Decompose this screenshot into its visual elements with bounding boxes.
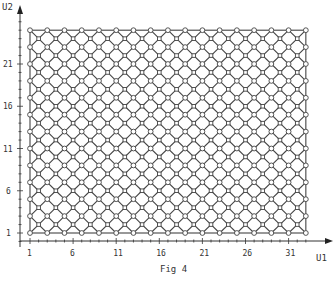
circle-node-icon bbox=[62, 129, 67, 134]
circle-node-icon bbox=[114, 231, 119, 236]
square-node-icon bbox=[71, 189, 75, 193]
square-node-icon bbox=[89, 206, 93, 210]
circle-node-icon bbox=[200, 95, 205, 100]
circle-node-icon bbox=[217, 129, 222, 134]
circle-node-icon bbox=[286, 231, 291, 236]
x-axis-label: U1 bbox=[316, 253, 327, 263]
circle-node-icon bbox=[183, 129, 188, 134]
circle-node-icon bbox=[114, 129, 119, 134]
square-node-icon bbox=[244, 54, 248, 58]
circle-node-icon bbox=[269, 28, 274, 33]
square-node-icon bbox=[37, 37, 41, 41]
circle-node-icon bbox=[148, 231, 153, 236]
circle-node-icon bbox=[45, 79, 50, 84]
square-node-icon bbox=[158, 37, 162, 41]
circle-node-icon bbox=[97, 95, 102, 100]
square-node-icon bbox=[123, 121, 127, 125]
circle-node-icon bbox=[114, 146, 119, 151]
square-node-icon bbox=[158, 121, 162, 125]
circle-node-icon bbox=[131, 79, 136, 84]
square-node-icon bbox=[175, 189, 179, 193]
square-node-icon bbox=[158, 223, 162, 227]
square-node-icon bbox=[261, 54, 265, 58]
square-node-icon bbox=[71, 206, 75, 210]
circle-node-icon bbox=[28, 129, 33, 134]
square-node-icon bbox=[140, 88, 144, 92]
square-node-icon bbox=[261, 121, 265, 125]
square-node-icon bbox=[209, 223, 213, 227]
circle-node-icon bbox=[28, 28, 33, 33]
circle-node-icon bbox=[252, 28, 257, 33]
circle-node-icon bbox=[131, 214, 136, 219]
square-node-icon bbox=[123, 155, 127, 159]
circle-node-icon bbox=[303, 28, 308, 33]
y-tick-label: 6 bbox=[6, 187, 11, 196]
circle-node-icon bbox=[252, 214, 257, 219]
square-node-icon bbox=[123, 138, 127, 142]
square-node-icon bbox=[192, 155, 196, 159]
square-node-icon bbox=[175, 172, 179, 176]
circle-node-icon bbox=[45, 129, 50, 134]
circle-node-icon bbox=[252, 129, 257, 134]
square-node-icon bbox=[140, 104, 144, 108]
square-node-icon bbox=[278, 88, 282, 92]
square-node-icon bbox=[71, 71, 75, 75]
lattice-figure: 161116212631 16111621 U1 U2 Fig 4 bbox=[0, 0, 335, 283]
circle-node-icon bbox=[79, 129, 84, 134]
square-node-icon bbox=[175, 155, 179, 159]
square-node-icon bbox=[106, 121, 110, 125]
square-node-icon bbox=[89, 37, 93, 41]
square-node-icon bbox=[158, 71, 162, 75]
circle-node-icon bbox=[269, 62, 274, 67]
circle-node-icon bbox=[183, 62, 188, 67]
square-node-icon bbox=[261, 88, 265, 92]
circle-node-icon bbox=[200, 129, 205, 134]
square-node-icon bbox=[295, 71, 299, 75]
circle-node-icon bbox=[252, 62, 257, 67]
square-node-icon bbox=[71, 104, 75, 108]
circle-node-icon bbox=[148, 163, 153, 168]
square-node-icon bbox=[106, 88, 110, 92]
circle-node-icon bbox=[286, 45, 291, 50]
circle-node-icon bbox=[286, 163, 291, 168]
circle-node-icon bbox=[183, 79, 188, 84]
square-node-icon bbox=[54, 138, 58, 142]
square-node-icon bbox=[175, 71, 179, 75]
circle-node-icon bbox=[62, 197, 67, 202]
circle-node-icon bbox=[62, 146, 67, 151]
lattice-mesh bbox=[28, 28, 309, 236]
square-node-icon bbox=[295, 206, 299, 210]
circle-node-icon bbox=[166, 112, 171, 117]
square-node-icon bbox=[123, 172, 127, 176]
square-node-icon bbox=[140, 54, 144, 58]
square-node-icon bbox=[158, 104, 162, 108]
square-node-icon bbox=[278, 223, 282, 227]
square-node-icon bbox=[106, 54, 110, 58]
circle-node-icon bbox=[62, 112, 67, 117]
circle-node-icon bbox=[114, 79, 119, 84]
circle-node-icon bbox=[79, 62, 84, 67]
square-node-icon bbox=[278, 155, 282, 159]
square-node-icon bbox=[89, 172, 93, 176]
circle-node-icon bbox=[234, 28, 239, 33]
square-node-icon bbox=[106, 172, 110, 176]
circle-node-icon bbox=[286, 62, 291, 67]
square-node-icon bbox=[261, 104, 265, 108]
square-node-icon bbox=[123, 223, 127, 227]
square-node-icon bbox=[106, 155, 110, 159]
circle-node-icon bbox=[97, 214, 102, 219]
circle-node-icon bbox=[252, 112, 257, 117]
square-node-icon bbox=[192, 37, 196, 41]
square-node-icon bbox=[54, 54, 58, 58]
square-node-icon bbox=[226, 71, 230, 75]
circle-node-icon bbox=[45, 197, 50, 202]
circle-node-icon bbox=[217, 214, 222, 219]
square-node-icon bbox=[209, 71, 213, 75]
circle-node-icon bbox=[97, 163, 102, 168]
circle-node-icon bbox=[131, 180, 136, 185]
circle-node-icon bbox=[45, 62, 50, 67]
circle-node-icon bbox=[183, 28, 188, 33]
circle-node-icon bbox=[234, 146, 239, 151]
circle-node-icon bbox=[252, 146, 257, 151]
square-node-icon bbox=[54, 121, 58, 125]
